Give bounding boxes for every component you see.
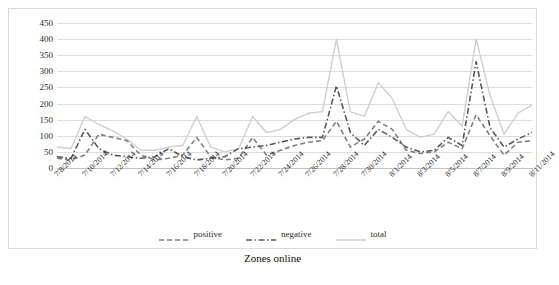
plot-wrapper: 450400350300250200150100500 7/8/20147/10… <box>9 9 538 209</box>
y-tick-label: 250 <box>40 83 54 92</box>
dashdot-line-key-icon <box>246 230 276 238</box>
chart-frame: 450400350300250200150100500 7/8/20147/10… <box>8 8 537 249</box>
y-tick-label: 400 <box>40 35 54 44</box>
y-tick-label: 450 <box>40 19 54 28</box>
y-tick-label: 150 <box>40 116 54 125</box>
legend-label: positive <box>194 230 223 239</box>
y-tick-label: 300 <box>40 67 54 76</box>
dashed-line-key-icon <box>159 230 189 238</box>
y-tick-label: 350 <box>40 51 54 60</box>
legend-item-total[interactable]: total <box>336 230 387 239</box>
y-axis-tick-labels: 450400350300250200150100500 <box>9 9 57 209</box>
solid-line-key-icon <box>336 230 366 238</box>
y-tick-label: 200 <box>40 100 54 109</box>
legend-item-positive[interactable]: positive <box>159 230 223 239</box>
legend-label: total <box>371 230 387 239</box>
x-axis-tick-labels: 7/8/20147/10/20147/12/20147/14/20147/16/… <box>57 161 538 231</box>
legend-label: negative <box>281 230 312 239</box>
y-tick-label: 100 <box>40 132 54 141</box>
figure-root: 450400350300250200150100500 7/8/20147/10… <box>0 0 559 285</box>
legend-item-negative[interactable]: negative <box>246 230 312 239</box>
y-tick-label: 50 <box>44 148 53 157</box>
figure-caption: Zones online <box>8 252 537 264</box>
series-line-total <box>57 39 532 152</box>
chart-legend: positivenegativetotal <box>9 225 536 243</box>
